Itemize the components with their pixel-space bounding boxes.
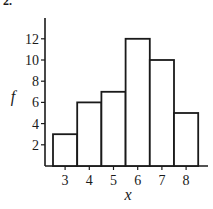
histogram-bar: [101, 92, 125, 166]
histogram-bar: [126, 39, 150, 166]
x-tick-label: 4: [86, 173, 93, 188]
y-tick-label: 12: [25, 32, 39, 47]
x-tick-label: 5: [110, 173, 117, 188]
y-tick-label: 2: [32, 138, 39, 153]
histogram-bar: [77, 102, 101, 166]
histogram-bar: [150, 60, 174, 166]
histogram-bar: [174, 113, 198, 166]
histogram-chart: 24681012345678xf: [0, 0, 213, 209]
x-tick-label: 3: [62, 173, 69, 188]
y-axis-label: f: [11, 88, 18, 106]
y-tick-label: 10: [25, 53, 39, 68]
x-axis-label: x: [123, 186, 131, 203]
y-tick-label: 6: [32, 95, 39, 110]
histogram-bar: [53, 134, 77, 166]
y-tick-label: 8: [32, 74, 39, 89]
x-tick-label: 7: [158, 173, 165, 188]
x-tick-label: 6: [134, 173, 141, 188]
x-tick-label: 8: [183, 173, 190, 188]
y-tick-label: 4: [32, 117, 39, 132]
